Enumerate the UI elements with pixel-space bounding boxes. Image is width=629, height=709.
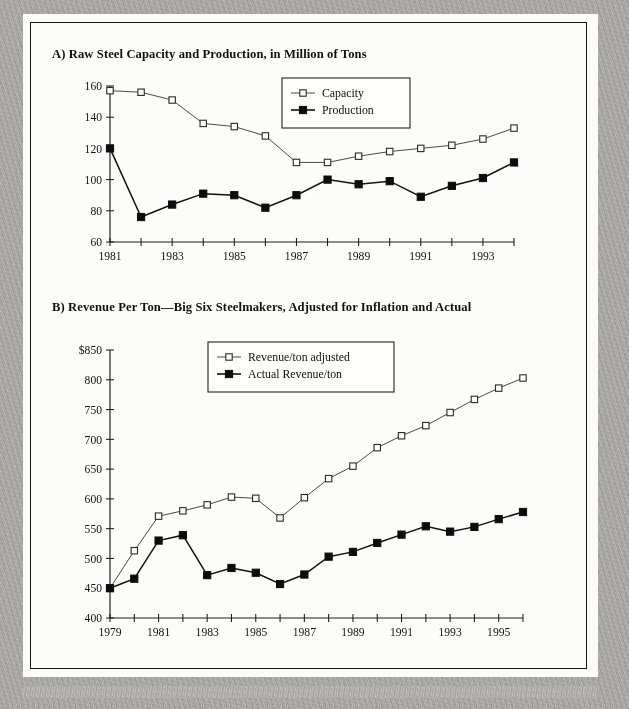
chart-b-line-1 — [110, 378, 523, 588]
chart-b-marker — [495, 516, 502, 523]
chart-a-series-2 — [106, 145, 517, 221]
chart-b-marker — [155, 513, 161, 519]
chart-b-marker — [179, 532, 186, 539]
chart-b-marker — [471, 396, 477, 402]
legend-open-square-icon — [300, 90, 306, 96]
chart-b-marker — [180, 508, 186, 514]
chart-b-xtick-label: 1989 — [341, 626, 364, 639]
chart-a-title: A) Raw Steel Capacity and Production, in… — [52, 47, 367, 62]
chart-b-marker — [253, 495, 259, 501]
chart-a-legend-label: Production — [322, 103, 374, 117]
chart-b-xtick-label: 1979 — [98, 626, 121, 639]
chart-b-marker — [447, 409, 453, 415]
chart-b-ytick-label: 750 — [85, 404, 103, 417]
chart-b-xtick-label: 1987 — [293, 626, 316, 639]
chart-b-marker — [301, 495, 307, 501]
chart-b-ytick-label: 600 — [85, 493, 103, 506]
chart-b-marker — [252, 569, 259, 576]
chart-b-marker — [204, 502, 210, 508]
chart-b-ytick-label: 700 — [85, 434, 103, 447]
chart-a-marker — [479, 174, 486, 181]
chart-a-marker — [449, 142, 455, 148]
chart-a-marker — [107, 87, 113, 93]
chart-b-marker — [422, 523, 429, 530]
chart-a-xtick-label: 1983 — [161, 250, 184, 263]
chart-b-marker — [228, 564, 235, 571]
chart-a-marker — [324, 176, 331, 183]
chart-a-marker — [262, 133, 268, 139]
chart-a-marker — [231, 123, 237, 129]
chart-b-xtick-label: 1993 — [439, 626, 462, 639]
chart-a-xtick-label: 1985 — [223, 250, 246, 263]
chart-b-marker — [349, 548, 356, 555]
legend-filled-square-icon — [299, 106, 306, 113]
chart-b-marker — [131, 548, 137, 554]
chart-b-marker — [519, 508, 526, 515]
chart-b-xtick-label: 1983 — [196, 626, 219, 639]
chart-a-marker — [138, 89, 144, 95]
chart-a-ytick-label: 120 — [85, 143, 103, 156]
chart-b-marker — [155, 537, 162, 544]
chart-a-xtick-label: 1987 — [285, 250, 308, 263]
chart-b-marker — [447, 528, 454, 535]
chart-b-line-2 — [110, 512, 523, 588]
chart-b-ytick-label: 550 — [85, 523, 103, 536]
chart-a-marker — [200, 120, 206, 126]
chart-b-marker — [204, 572, 211, 579]
chart-b-marker — [398, 433, 404, 439]
chart-b-ytick-label: 450 — [85, 582, 103, 595]
chart-a-legend: CapacityProduction — [282, 78, 410, 128]
chart-b-plot: 400450500550600650700750800$850197919811… — [36, 340, 531, 645]
chart-b-legend-label: Revenue/ton adjusted — [248, 350, 350, 364]
chart-a-marker — [386, 178, 393, 185]
chart-b-marker — [374, 539, 381, 546]
chart-a-ytick-label: 100 — [85, 174, 103, 187]
chart-a-marker — [106, 145, 113, 152]
chart-a-ytick-label: 60 — [90, 236, 102, 249]
legend-filled-square-icon — [225, 370, 232, 377]
chart-b-marker — [471, 523, 478, 530]
chart-b-xtick-label: 1991 — [390, 626, 413, 639]
chart-b-ytick-label: 500 — [85, 553, 103, 566]
chart-b-marker — [374, 444, 380, 450]
chart-a-marker — [324, 159, 330, 165]
chart-a-marker — [448, 182, 455, 189]
chart-b-marker — [228, 494, 234, 500]
chart-a-xtick-label: 1993 — [471, 250, 494, 263]
chart-b-xtick-label: 1985 — [244, 626, 267, 639]
chart-b-marker — [350, 463, 356, 469]
chart-a-plot: 6080100120140160198119831985198719891991… — [44, 78, 524, 268]
chart-b-series-2 — [106, 508, 526, 591]
chart-b-marker — [423, 422, 429, 428]
chart-b-marker — [301, 571, 308, 578]
chart-a-ytick-label: 140 — [85, 111, 103, 124]
chart-b-marker — [398, 531, 405, 538]
chart-b-marker — [325, 553, 332, 560]
chart-b-title: B) Revenue Per Ton—Big Six Steelmakers, … — [52, 300, 471, 315]
chart-b-marker — [496, 385, 502, 391]
chart-b-legend-label: Actual Revenue/ton — [248, 367, 342, 381]
chart-b-marker — [520, 375, 526, 381]
chart-b-marker — [277, 515, 283, 521]
chart-b-ytick-label: 650 — [85, 463, 103, 476]
chart-b-svg: 400450500550600650700750800$850197919811… — [36, 340, 531, 648]
chart-b-marker — [106, 585, 113, 592]
chart-a-xtick-label: 1991 — [409, 250, 432, 263]
chart-b-ytick-label: 800 — [85, 374, 103, 387]
chart-b-xtick-label: 1981 — [147, 626, 170, 639]
chart-b-marker — [325, 475, 331, 481]
chart-a-ytick-label: 80 — [90, 205, 102, 218]
chart-a-marker — [231, 192, 238, 199]
chart-a-xtick-label: 1981 — [98, 250, 121, 263]
chart-b-legend: Revenue/ton adjustedActual Revenue/ton — [208, 342, 394, 392]
chart-a-marker — [169, 201, 176, 208]
chart-a-marker — [293, 192, 300, 199]
legend-open-square-icon — [226, 354, 232, 360]
chart-b-series-1 — [107, 375, 526, 592]
chart-a-marker — [355, 153, 361, 159]
chart-a-marker — [417, 193, 424, 200]
chart-a-marker — [137, 213, 144, 220]
chart-b-marker — [131, 575, 138, 582]
chart-a-marker — [418, 145, 424, 151]
chart-b-xtick-label: 1995 — [487, 626, 510, 639]
